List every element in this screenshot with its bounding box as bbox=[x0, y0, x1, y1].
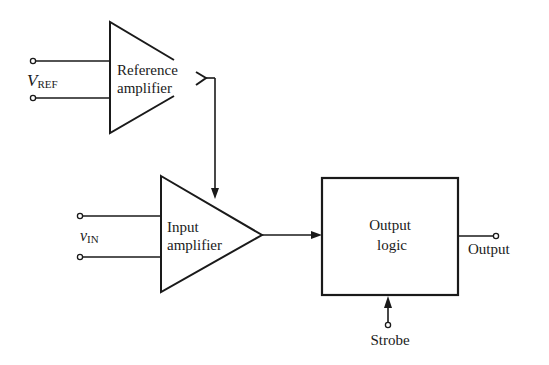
reference-amplifier-label-2: amplifier bbox=[117, 80, 172, 96]
vin-terminal-top bbox=[77, 213, 82, 218]
ref-to-input-connector bbox=[206, 78, 219, 199]
output-terminal bbox=[493, 233, 498, 238]
arrow-down-icon bbox=[211, 188, 219, 199]
vref-terminal-bottom bbox=[30, 95, 35, 100]
reference-amplifier-label-1: Reference bbox=[117, 62, 178, 78]
input-amplifier-label-2: amplifier bbox=[167, 237, 222, 253]
reference-amplifier: Reference amplifier bbox=[110, 22, 206, 133]
strobe-input: Strobe bbox=[370, 296, 410, 348]
input-to-logic-connector bbox=[262, 231, 322, 239]
vref-label: VREF bbox=[27, 71, 58, 90]
vref-input: VREF bbox=[27, 58, 110, 100]
output-logic-label-1: Output bbox=[369, 217, 412, 233]
output-logic-label-2: logic bbox=[377, 237, 407, 253]
arrow-right-icon bbox=[311, 231, 322, 239]
block-diagram: VREF Reference amplifier vIN Input ampli… bbox=[0, 0, 549, 365]
output-logic: Output logic bbox=[322, 178, 458, 295]
strobe-label: Strobe bbox=[370, 332, 410, 348]
strobe-terminal bbox=[385, 322, 390, 327]
input-amplifier-label-1: Input bbox=[167, 219, 199, 235]
input-amplifier: Input amplifier bbox=[161, 176, 262, 292]
output-terminal-group: Output bbox=[458, 233, 511, 257]
output-label: Output bbox=[468, 241, 511, 257]
arrow-up-icon bbox=[384, 296, 392, 308]
vin-label: vIN bbox=[80, 227, 99, 245]
vin-input: vIN bbox=[77, 213, 161, 259]
vin-terminal-bottom bbox=[77, 254, 82, 259]
vref-terminal-top bbox=[30, 58, 35, 63]
